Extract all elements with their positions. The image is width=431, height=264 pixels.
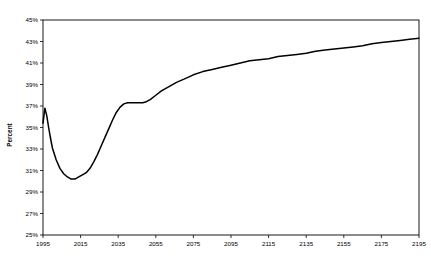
chart-container: 25%27%29%31%33%35%37%39%41%43%45% 199520… [0,0,431,264]
y-tick-label: 33% [26,145,39,152]
y-tick-label: 41% [26,59,39,66]
y-tick-label: 25% [26,231,39,238]
y-tick-label: 43% [26,38,39,45]
x-tick-label: 2035 [111,240,125,247]
y-axis-title: Percent [6,122,13,146]
y-tick-label: 45% [26,16,39,23]
x-tick-label: 2075 [187,240,201,247]
y-tick-label: 29% [26,188,39,195]
x-tick-label: 1995 [36,240,50,247]
y-axis-title-group: Percent [6,122,13,146]
y-tick-label: 27% [26,210,39,217]
x-tick-label: 2015 [74,240,88,247]
x-tick-label: 2055 [149,240,163,247]
x-tick-label: 2135 [299,240,313,247]
y-tick-label: 39% [26,81,39,88]
x-tick-label: 2195 [412,240,426,247]
y-tick-label: 37% [26,102,39,109]
x-tick-label: 2175 [375,240,389,247]
x-tick-label: 2095 [224,240,238,247]
y-tick-label: 35% [26,124,39,131]
x-tick-label: 2115 [262,240,276,247]
chart-background [0,0,431,264]
y-tick-label: 31% [26,167,39,174]
x-tick-label: 2155 [337,240,351,247]
line-chart: 25%27%29%31%33%35%37%39%41%43%45% 199520… [0,0,431,264]
